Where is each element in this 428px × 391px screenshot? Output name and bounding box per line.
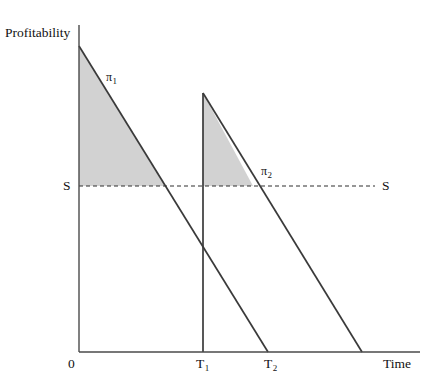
x-tick-t1-subscript: 1 [204, 363, 209, 373]
shaded-region-pi2 [203, 93, 253, 186]
pi1-line [79, 46, 268, 352]
pi1-label-subscript: 1 [112, 76, 117, 86]
chart-canvas [0, 0, 428, 391]
y-axis-label: Profitability [5, 26, 70, 40]
pi2-line [203, 93, 362, 352]
profitability-time-diagram: Profitability Time 0 T1 T2 S S π1 π2 [0, 0, 428, 391]
x-tick-t2-base: T [264, 356, 272, 371]
x-tick-t2: T2 [264, 357, 277, 373]
x-tick-t1-base: T [196, 356, 204, 371]
s-threshold-label-right: S [382, 179, 390, 193]
x-axis-label: Time [383, 357, 411, 371]
x-tick-t1: T1 [196, 357, 209, 373]
pi2-label-subscript: 2 [267, 170, 272, 180]
s-threshold-label-left: S [63, 179, 71, 193]
pi2-curve-label: π2 [261, 165, 272, 180]
x-tick-t2-subscript: 2 [272, 363, 277, 373]
pi1-curve-label: π1 [106, 71, 117, 86]
x-tick-origin: 0 [68, 357, 75, 371]
